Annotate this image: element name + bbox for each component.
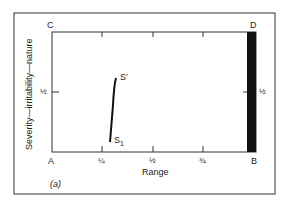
x-tick-label-three-quarter: ¾ xyxy=(199,156,206,166)
plot-box xyxy=(52,32,256,152)
curve-s1-to-s-prime xyxy=(110,78,116,142)
curve-start-subscript: 1 xyxy=(120,140,124,147)
corner-label-d: D xyxy=(250,20,257,30)
y-axis-label: Severity—irritability—nature xyxy=(24,38,34,150)
curve-start-label: S1 xyxy=(114,135,124,149)
x-axis-label: Range xyxy=(142,167,169,177)
curve-end-label: S′ xyxy=(120,72,128,82)
y-tick-label-right-half: ½ xyxy=(259,87,266,97)
x-tick-label-half: ½ xyxy=(149,156,156,166)
right-bar xyxy=(247,32,256,152)
x-tick-label-quarter: ¼ xyxy=(98,156,105,166)
y-tick-label-left-half: ½ xyxy=(40,87,47,97)
corner-label-b: B xyxy=(251,156,257,166)
panel-label: (a) xyxy=(50,179,61,189)
corner-label-a: A xyxy=(48,156,54,166)
corner-label-c: C xyxy=(47,20,54,30)
